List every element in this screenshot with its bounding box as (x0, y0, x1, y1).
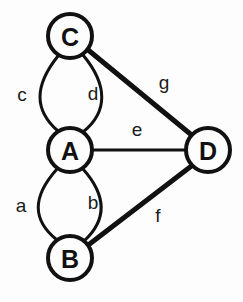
graph-edge-a[interactable] (38, 169, 57, 240)
edge-label-a: a (16, 195, 27, 216)
edge-label-b: b (88, 192, 99, 213)
edge-label-f: f (155, 205, 161, 226)
node-label-B: B (61, 245, 79, 273)
node-label-D: D (199, 137, 217, 165)
node-label-A: A (61, 137, 79, 165)
graph-diagram-canvas: cdabegf CABD (0, 0, 243, 302)
node-label-C: C (61, 23, 79, 51)
graph-edge-f[interactable] (87, 164, 194, 246)
edge-label-c: c (17, 84, 27, 105)
graph-svg: cdabegf CABD (0, 0, 243, 302)
edge-label-e: e (132, 119, 143, 140)
edge-label-g: g (159, 72, 170, 93)
graph-edge-c[interactable] (40, 56, 58, 131)
edge-label-d: d (88, 83, 99, 104)
